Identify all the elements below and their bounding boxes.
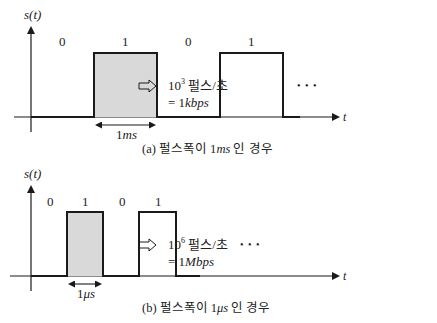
panel-b-bit-3: 1	[155, 195, 162, 208]
pulse-diagram	[0, 0, 437, 323]
panel-a-bit-0: 0	[59, 35, 66, 48]
panel-a-width-label: 1ms	[116, 128, 137, 141]
panel-b-ellipsis: • • •	[240, 240, 261, 250]
panel-a-rate: 103 펄스/초 = 1kbps	[168, 73, 228, 111]
panel-b-bit-1: 1	[82, 195, 89, 208]
panel-a-y-axis-label: s(t)	[24, 8, 41, 21]
panel-b-implies-arrow	[139, 239, 156, 251]
panel-b-bit-2: 0	[119, 195, 126, 208]
panel-a-caption: (a) 펄스폭이 1ms 인 경우	[142, 143, 273, 156]
panel-b-caption: (b) 펄스폭이 1μs 인 경우	[142, 302, 270, 315]
panel-a-bit-3: 1	[248, 35, 255, 48]
panel-a-signal	[31, 53, 300, 117]
panel-a-x-axis-label: t	[343, 111, 346, 123]
panel-a-bit-1: 1	[122, 35, 129, 48]
panel-b-x-axis-label: t	[343, 270, 346, 282]
panel-b-y-axis-label: s(t)	[24, 167, 41, 180]
panel-b-bit-0: 0	[47, 195, 54, 208]
panel-a-shaded-pulse	[94, 53, 157, 117]
panel-b-shaded-pulse	[67, 212, 103, 276]
panel-b-width-label: 1μs	[77, 287, 95, 300]
panel-a-ellipsis: • • •	[297, 81, 318, 91]
panel-b-rate: 106 펄스/초 = 1Mbps	[168, 232, 228, 270]
panel-a-bit-2: 0	[185, 35, 192, 48]
